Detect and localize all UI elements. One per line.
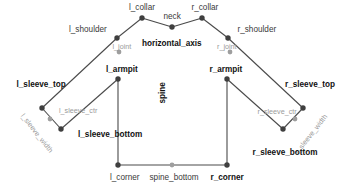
node-r_sleeve_bottom[interactable] bbox=[280, 126, 285, 131]
node-r_collar[interactable] bbox=[199, 15, 204, 20]
label-r_collar: r_collar bbox=[192, 4, 219, 12]
node-neck[interactable] bbox=[169, 24, 174, 29]
node-spine_bottom[interactable] bbox=[170, 163, 175, 168]
node-l_sleeve_bottom[interactable] bbox=[58, 126, 63, 131]
node-r_sleeve_ctr[interactable] bbox=[293, 117, 298, 122]
label-l_sleeve_ctr: l_sleeve_ctr bbox=[59, 107, 97, 114]
node-l_shoulder[interactable] bbox=[114, 35, 119, 40]
node-l_armpit[interactable] bbox=[115, 76, 120, 81]
edge-l_sleeve_bottom-l_armpit bbox=[61, 79, 118, 129]
label-l_corner: l_corner bbox=[110, 174, 140, 182]
label-r_corner: r_corner bbox=[211, 174, 244, 182]
label-r_joint: r_joint bbox=[217, 43, 237, 50]
node-l_sleeve_top[interactable] bbox=[39, 105, 44, 110]
edge-r_collar-r_shoulder bbox=[202, 18, 228, 38]
label-l_collar: l_collar bbox=[129, 4, 155, 12]
label-l_shoulder: l_shoulder bbox=[69, 26, 107, 34]
label-l_joint: l_joint bbox=[113, 43, 132, 50]
label-l_armpit: l_armpit bbox=[106, 66, 138, 74]
node-r_armpit[interactable] bbox=[224, 76, 229, 81]
node-l_sleeve_ctr[interactable] bbox=[48, 117, 53, 122]
label-neck: neck bbox=[164, 13, 181, 21]
node-r_corner[interactable] bbox=[224, 162, 229, 167]
label-r_shoulder: r_shoulder bbox=[238, 26, 277, 34]
label-r_sleeve_top: r_sleeve_top bbox=[285, 81, 335, 89]
garment-outline-graph bbox=[0, 0, 352, 189]
edge-r_sleeve_bottom-r_armpit bbox=[227, 79, 283, 129]
label-spine_bottom: spine_bottom bbox=[150, 174, 199, 182]
node-r_shoulder[interactable] bbox=[225, 35, 230, 40]
node-r_sleeve_top[interactable] bbox=[300, 105, 305, 110]
label-r_armpit: r_armpit bbox=[210, 66, 243, 74]
node-l_corner[interactable] bbox=[115, 162, 120, 167]
label-r_sleeve_bottom: r_sleeve_bottom bbox=[253, 149, 318, 157]
label-r_sleeve_ctr: r_sleeve_ctr bbox=[258, 108, 297, 115]
edge-l_collar-l_shoulder bbox=[117, 18, 142, 38]
label-horizontal_axis: horizontal_axis bbox=[142, 40, 202, 48]
label-spine: spine bbox=[159, 82, 167, 103]
label-l_sleeve_top: l_sleeve_top bbox=[17, 81, 66, 89]
label-l_sleeve_bottom: l_sleeve_bottom bbox=[78, 131, 142, 139]
node-l_collar[interactable] bbox=[139, 15, 144, 20]
garment-landmark-diagram: l_collarneckr_collarl_shoulderr_shoulder… bbox=[0, 0, 352, 189]
